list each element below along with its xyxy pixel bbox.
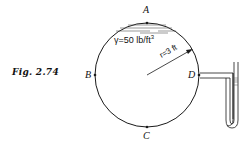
point-b-label: B <box>85 69 91 80</box>
point-d-label: D <box>188 69 195 80</box>
point-c-marker <box>146 126 149 129</box>
specific-weight-exponent: 3 <box>151 34 154 40</box>
liquid-surface-hatching <box>116 25 176 33</box>
point-d-marker <box>198 74 201 77</box>
u-tube-manometer <box>200 62 238 128</box>
point-b-marker <box>94 74 97 77</box>
point-a-marker <box>146 22 149 25</box>
radius-arrowhead <box>186 49 193 54</box>
specific-weight-value: γ=50 lb/ft <box>114 35 151 45</box>
manometer-fluid-level <box>234 78 238 85</box>
specific-weight-label: γ=50 lb/ft3 <box>114 34 154 45</box>
point-a-label: A <box>143 4 149 15</box>
point-c-label: C <box>143 130 150 141</box>
figure-label: Fig. 2.74 <box>12 67 59 77</box>
